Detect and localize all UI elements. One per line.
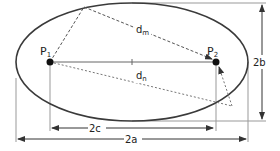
focus-p2-label: P2 [207,45,218,59]
focus-p2-point [213,59,220,66]
dimension-2c-label: 2c [89,123,101,134]
focus-p1-label: P1 [40,45,51,59]
dimension-2a-label: 2a [125,134,138,145]
dimension-2b-label: 2b [253,57,266,68]
dn-line-p1-to-point [50,62,232,106]
dm-line-p1-to-point [50,7,84,62]
ellipse-diagram: P1 P2 dm dn 2c 2a 2b [0,0,280,151]
focus-p1-point [47,59,54,66]
